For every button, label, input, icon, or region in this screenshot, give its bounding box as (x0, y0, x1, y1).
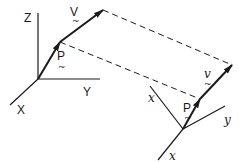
dashed-line-position-tip (60, 42, 200, 99)
right-x-upper-axis (150, 86, 183, 129)
left-position-tilde: ~ (58, 62, 66, 72)
right-x-lower-label: x (169, 149, 176, 162)
left-z-label: Z (24, 11, 31, 25)
right-position-tilde: ~ (184, 113, 192, 123)
right-velocity-tilde: ~ (204, 79, 212, 89)
left-frame: Z Y X P ~ V ~ (10, 5, 103, 117)
dashed-line-velocity-tip (103, 10, 232, 65)
right-x-upper-label: x (148, 91, 155, 105)
left-x-axis (10, 79, 38, 105)
transformation-diagram: Z Y X P ~ V ~ x y x P ~ v ~ (0, 0, 239, 162)
right-frame: x y x P ~ v ~ (148, 65, 232, 162)
left-x-label: X (17, 103, 25, 117)
left-velocity-tilde: ~ (72, 16, 80, 26)
left-position-label: P (57, 49, 65, 63)
left-velocity-vector (60, 10, 103, 42)
left-y-label: Y (83, 85, 91, 99)
right-y-label: y (223, 113, 231, 127)
